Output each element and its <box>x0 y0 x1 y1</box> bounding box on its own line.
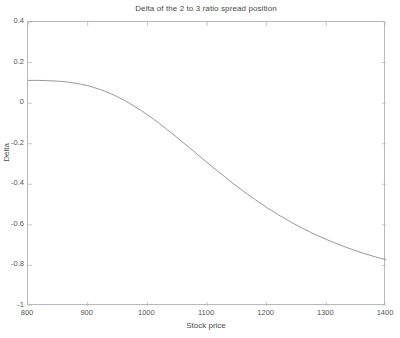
x-tick-label: 1400 <box>365 308 400 317</box>
y-tick-label: -0.4 <box>0 178 24 187</box>
x-tick-label: 1200 <box>246 308 286 317</box>
plot-area <box>27 21 385 305</box>
chart-title: Delta of the 2 to 3 ratio spread positio… <box>27 4 385 13</box>
x-tick-label: 1000 <box>126 308 166 317</box>
y-tick-label: 0 <box>0 97 24 106</box>
delta-curve <box>28 80 386 259</box>
x-axis-label: Stock price <box>27 321 385 330</box>
y-tick-label: 0.4 <box>0 16 24 25</box>
y-tick-label: 0.2 <box>0 57 24 66</box>
x-tick-label: 1300 <box>305 308 345 317</box>
plot-svg <box>28 22 386 306</box>
x-tick-label: 800 <box>7 308 47 317</box>
tick-marks <box>28 22 386 306</box>
y-tick-label: -0.6 <box>0 219 24 228</box>
y-axis-label: Delta <box>2 133 11 173</box>
x-axis-tick-labels: 80090010001100120013001400 <box>27 308 385 320</box>
x-tick-label: 1100 <box>186 308 226 317</box>
x-tick-label: 900 <box>67 308 107 317</box>
figure-canvas: Delta of the 2 to 3 ratio spread positio… <box>0 0 400 338</box>
y-tick-label: -0.8 <box>0 259 24 268</box>
